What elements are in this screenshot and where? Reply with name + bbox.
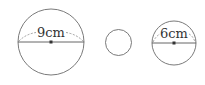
- diameter-label-medium: 6cm: [160, 26, 188, 41]
- dimension-arc-left-large: [19, 33, 36, 42]
- circle-small: [106, 30, 132, 56]
- center-point-large: [50, 41, 53, 44]
- circle-small-outline: [106, 30, 132, 56]
- dimension-arc-right-large: [66, 33, 83, 42]
- circle-large: 9cm: [18, 9, 84, 75]
- circles-diagram: 9cm 6cm: [0, 0, 205, 85]
- center-point-medium: [173, 42, 176, 45]
- diameter-label-large: 9cm: [37, 25, 65, 40]
- dimension-arc-left-medium: [153, 34, 160, 42]
- circle-medium: 6cm: [152, 21, 196, 65]
